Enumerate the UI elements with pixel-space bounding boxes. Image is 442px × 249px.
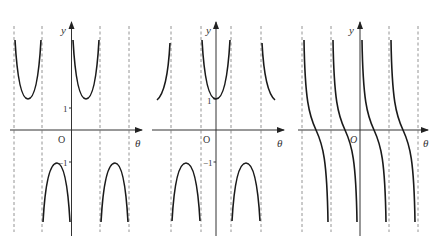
- y-axis-label: y: [205, 24, 211, 36]
- tick-label-neg1: −1: [203, 158, 213, 168]
- x-axis-label: θ: [135, 137, 141, 149]
- panel-cot: y θ O: [298, 22, 429, 236]
- tick-label-1: 1: [63, 104, 68, 114]
- tick-label-1: 1: [207, 96, 212, 106]
- x-axis-label: θ: [423, 137, 429, 149]
- origin-label: O: [203, 134, 210, 145]
- panel-csc: y θ O 1 −1: [10, 22, 142, 236]
- origin-label: O: [350, 134, 357, 145]
- tick-label-neg1: −1: [58, 158, 68, 168]
- y-axis-label: y: [348, 24, 354, 36]
- y-axis-label: y: [60, 24, 66, 36]
- origin-label: O: [58, 134, 65, 145]
- panel-sec: y θ O 1 −1: [152, 22, 284, 236]
- trig-graphs-figure: y θ O 1 −1 y θ O 1 −1: [0, 0, 442, 249]
- x-axis-label: θ: [277, 137, 283, 149]
